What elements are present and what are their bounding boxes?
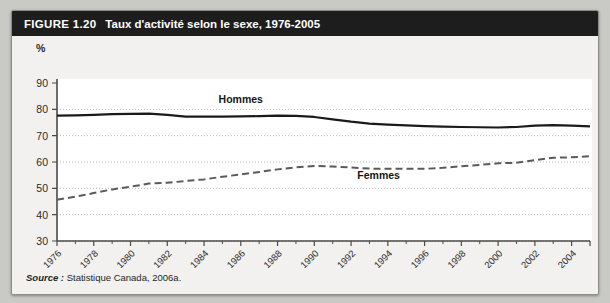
svg-text:1990: 1990 xyxy=(298,248,321,268)
svg-text:1996: 1996 xyxy=(408,248,431,268)
svg-text:30: 30 xyxy=(36,235,48,247)
svg-text:80: 80 xyxy=(36,103,48,115)
svg-text:1988: 1988 xyxy=(261,248,284,268)
chart-plot-area: % 30405060708090197619781980198219841986… xyxy=(12,36,598,268)
series-annotation-hommes: Hommes xyxy=(219,93,264,105)
svg-text:60: 60 xyxy=(36,156,48,168)
svg-text:1998: 1998 xyxy=(445,248,468,268)
svg-text:50: 50 xyxy=(36,182,48,194)
source-note: Source : Statistique Canada, 2006a. xyxy=(26,272,181,283)
svg-text:1978: 1978 xyxy=(77,248,100,268)
svg-text:2004: 2004 xyxy=(555,248,578,268)
page-title: Taux d'activité selon le sexe, 1976-2005 xyxy=(105,18,320,30)
svg-text:90: 90 xyxy=(36,77,48,89)
series-annotation-femmes: Femmes xyxy=(357,169,400,181)
svg-text:2000: 2000 xyxy=(482,248,505,268)
svg-text:1980: 1980 xyxy=(114,248,137,268)
source-text: Statistique Canada, 2006a. xyxy=(67,272,182,283)
svg-text:1984: 1984 xyxy=(188,248,211,268)
svg-text:40: 40 xyxy=(36,209,48,221)
svg-text:70: 70 xyxy=(36,130,48,142)
line-chart-svg: 3040506070809019761978198019821984198619… xyxy=(12,36,599,268)
figure-number-label: FIGURE 1.20 xyxy=(24,18,96,30)
svg-text:1976: 1976 xyxy=(41,248,64,268)
svg-text:1982: 1982 xyxy=(151,248,174,268)
source-label: Source : xyxy=(26,272,64,283)
figure-card: FIGURE 1.20 Taux d'activité selon le sex… xyxy=(11,10,599,295)
svg-text:1992: 1992 xyxy=(335,248,358,268)
figure-title-bar: FIGURE 1.20 Taux d'activité selon le sex… xyxy=(12,11,598,36)
svg-text:2002: 2002 xyxy=(519,248,542,268)
svg-text:1986: 1986 xyxy=(224,248,247,268)
svg-text:1994: 1994 xyxy=(372,248,395,268)
